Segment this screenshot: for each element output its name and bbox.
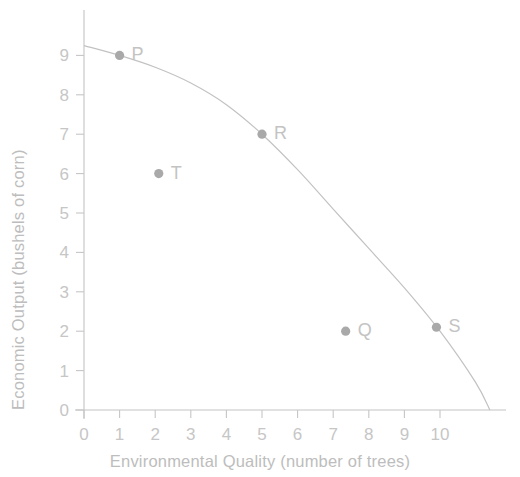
data-point-label-s: S <box>448 316 460 336</box>
data-point-label-q: Q <box>358 320 372 340</box>
y-axis-tick-label: 7 <box>60 125 69 144</box>
x-axis-tick-label: 7 <box>328 425 337 444</box>
data-point-t <box>154 169 163 178</box>
x-axis-tick-label: 0 <box>79 425 88 444</box>
y-axis-tick-label: 4 <box>60 243 69 262</box>
x-axis-title: Environmental Quality (number of trees) <box>110 452 410 470</box>
scatter-plot: 0123456789100123456789PTRQSEnvironmental… <box>0 0 520 477</box>
y-axis-tick-label: 0 <box>60 401 69 420</box>
x-axis-tick-label: 1 <box>115 425 124 444</box>
y-axis-tick-label: 2 <box>60 322 69 341</box>
data-point-s <box>432 323 441 332</box>
x-axis-tick-label: 5 <box>257 425 266 444</box>
x-axis-tick-label: 9 <box>400 425 409 444</box>
data-point-p <box>115 51 124 60</box>
x-axis-tick-label: 2 <box>150 425 159 444</box>
data-point-label-t: T <box>171 163 182 183</box>
data-point-label-p: P <box>132 44 144 64</box>
y-axis-title: Economic Output (bushels of corn) <box>9 149 27 410</box>
y-axis-tick-label: 1 <box>60 362 69 381</box>
y-axis-tick-label: 5 <box>60 204 69 223</box>
x-axis-tick-label: 4 <box>222 425 231 444</box>
data-point-r <box>257 130 266 139</box>
frontier-curve <box>84 46 490 410</box>
y-axis-tick-label: 3 <box>60 283 69 302</box>
y-axis-tick-label: 9 <box>60 46 69 65</box>
x-axis-tick-label: 6 <box>293 425 302 444</box>
chart-figure: 0123456789100123456789PTRQSEnvironmental… <box>0 0 520 477</box>
y-axis-tick-label: 8 <box>60 86 69 105</box>
y-axis-tick-label: 6 <box>60 165 69 184</box>
data-point-q <box>341 327 350 336</box>
x-axis-tick-label: 3 <box>186 425 195 444</box>
x-axis-tick-label: 8 <box>364 425 373 444</box>
x-axis-tick-label: 10 <box>431 425 450 444</box>
data-point-label-r: R <box>274 123 287 143</box>
